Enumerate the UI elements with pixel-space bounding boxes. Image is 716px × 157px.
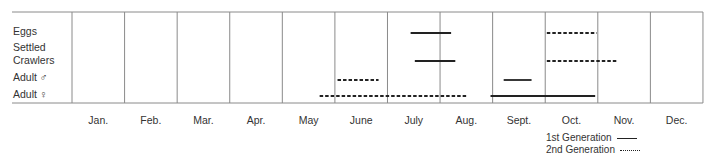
row-label-adult-female: Adult ♀ <box>13 88 48 100</box>
legend-1st-label: 1st Generation <box>546 132 612 143</box>
legend-1st-generation: 1st Generation <box>546 132 637 143</box>
month-label: July <box>388 114 440 126</box>
month-label: Feb. <box>125 114 177 126</box>
month-label: Jan. <box>72 114 124 126</box>
month-label: May <box>283 114 335 126</box>
solid-line-icon <box>617 138 637 139</box>
chart-bars <box>320 33 618 96</box>
row-label-eggs: Eggs <box>13 25 37 37</box>
row-label-crawlers: Crawlers <box>13 54 54 66</box>
month-label: Dec. <box>651 114 703 126</box>
month-label: Nov. <box>598 114 650 126</box>
month-label: Oct. <box>546 114 598 126</box>
month-label: Mar. <box>177 114 229 126</box>
legend-2nd-label: 2nd Generation <box>546 144 615 155</box>
month-label: June <box>335 114 387 126</box>
legend-2nd-generation: 2nd Generation <box>546 144 640 155</box>
month-label: Sept. <box>493 114 545 126</box>
chart-grid <box>12 12 703 103</box>
row-label-settled: Settled <box>13 41 46 53</box>
dashed-line-icon <box>620 150 640 151</box>
month-label: Apr. <box>230 114 282 126</box>
row-label-adult-male: Adult ♂ <box>13 71 48 83</box>
month-label: Aug. <box>440 114 492 126</box>
